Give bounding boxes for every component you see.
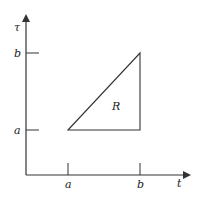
- tau-axis-label: τ: [14, 21, 21, 34]
- y-tick-label-b: b: [14, 47, 21, 60]
- x-tick-label-b: b: [137, 178, 144, 191]
- region-label: R: [111, 100, 120, 113]
- x-tick-label-a: a: [65, 178, 72, 191]
- region-triangle: [68, 53, 140, 130]
- t-axis-label: t: [177, 177, 182, 190]
- y-tick-label-a: a: [14, 124, 21, 137]
- region-diagram: τ t b a a b R: [0, 0, 203, 200]
